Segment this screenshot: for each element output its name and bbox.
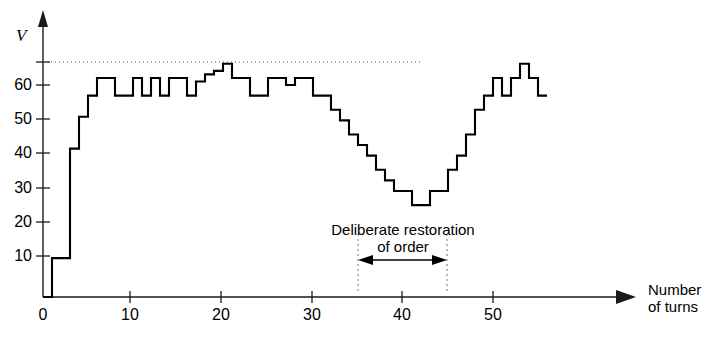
x-tick-label-10: 10 — [110, 306, 150, 324]
y-tick-label-40: 40 — [0, 144, 32, 162]
x-axis — [43, 290, 636, 304]
y-tick-label-50: 50 — [0, 110, 32, 128]
x-tick-label-30: 30 — [292, 306, 332, 324]
annotation-arrow — [358, 255, 447, 265]
y-tick-label-20: 20 — [0, 213, 32, 231]
y-tick-label-10: 10 — [0, 247, 32, 265]
x-axis-title-line2: of turns — [648, 298, 698, 315]
x-tick-label-0: 0 — [23, 306, 63, 324]
chart-canvas — [0, 0, 705, 348]
x-axis-title-line1: Number — [648, 281, 701, 298]
step-trace-line — [43, 64, 547, 297]
x-tick-label-40: 40 — [382, 306, 422, 324]
y-axis-label: V — [16, 26, 26, 46]
x-tick-label-20: 20 — [201, 306, 241, 324]
annotation-text-line1: Deliberate restoration — [253, 221, 553, 238]
x-tick-label-50: 50 — [473, 306, 513, 324]
y-tick-label-30: 30 — [0, 179, 32, 197]
y-tick-label-60: 60 — [0, 76, 32, 94]
step-chart-figure: V 60 50 40 30 20 10 0 10 20 30 40 50 Num… — [0, 0, 705, 348]
annotation-text-line2: of order — [253, 238, 553, 255]
